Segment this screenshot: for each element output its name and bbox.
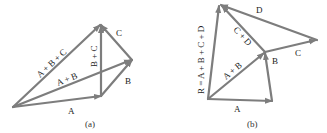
label-a: A (68, 106, 75, 116)
caption-a: (a) (85, 119, 95, 129)
label-b: B (125, 76, 131, 86)
label-c-plus-d: C + D (232, 25, 255, 48)
vector-b (265, 53, 272, 101)
caption-b: (b) (247, 119, 258, 129)
vector-a (208, 99, 272, 101)
label-b: B (272, 56, 278, 66)
vector-c (265, 40, 316, 52)
panel-b: A B C D A + B C + D R = A + B + C + D (b… (196, 5, 317, 129)
label-b-plus-c: B + C (89, 45, 99, 67)
label-c: C (116, 28, 122, 38)
vector-r (208, 6, 219, 99)
vector-a-plus-b-plus-c (13, 25, 100, 107)
label-d: D (256, 5, 263, 15)
panel-a: A B C A + B B + C A + B + C (a) (13, 25, 132, 129)
label-c: C (295, 48, 301, 58)
label-a: A (234, 104, 241, 114)
vector-addition-diagram: A B C A + B B + C A + B + C (a) A B C D … (0, 0, 327, 133)
label-r: R = A + B + C + D (196, 25, 206, 94)
